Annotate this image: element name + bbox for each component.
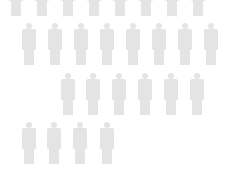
person-icon (99, 122, 115, 166)
person-torso (86, 79, 100, 100)
person-torso (152, 29, 166, 50)
person-icon (125, 23, 141, 67)
person-icon (21, 23, 37, 67)
pictogram-chart (0, 0, 225, 196)
person-icon (164, 0, 180, 18)
person-icon (99, 23, 115, 67)
person-icon (73, 23, 89, 67)
person-right-leg (185, 49, 190, 65)
person-icon (34, 0, 50, 18)
person-torso (73, 128, 87, 149)
person-right-leg (172, 0, 177, 16)
person-right-leg (107, 49, 112, 65)
person-right-leg (54, 148, 59, 164)
person-torso (74, 29, 88, 50)
person-right-leg (198, 0, 203, 16)
person-icon (203, 23, 219, 67)
person-icon (190, 0, 206, 18)
person-icon (177, 23, 193, 67)
person-right-leg (94, 0, 99, 16)
person-torso (164, 79, 178, 100)
person-icon (60, 73, 76, 117)
person-torso (47, 128, 61, 149)
person-torso (22, 128, 36, 149)
person-right-leg (81, 49, 86, 65)
person-torso (100, 128, 114, 149)
person-icon (21, 122, 37, 166)
person-right-leg (120, 0, 125, 16)
person-right-leg (107, 148, 112, 164)
person-icon (47, 23, 63, 67)
person-right-leg (133, 49, 138, 65)
person-right-leg (171, 99, 176, 115)
person-torso (178, 29, 192, 50)
person-right-leg (145, 99, 150, 115)
person-right-leg (146, 0, 151, 16)
person-right-leg (93, 99, 98, 115)
person-icon (86, 0, 102, 18)
person-right-leg (159, 49, 164, 65)
person-torso (126, 29, 140, 50)
person-right-leg (42, 0, 47, 16)
person-torso (22, 29, 36, 50)
person-right-leg (119, 99, 124, 115)
person-icon (46, 122, 62, 166)
person-right-leg (80, 148, 85, 164)
person-torso (204, 29, 218, 50)
person-torso (112, 79, 126, 100)
person-torso (61, 79, 75, 100)
person-icon (85, 73, 101, 117)
person-right-leg (29, 148, 34, 164)
person-right-leg (197, 99, 202, 115)
person-icon (112, 0, 128, 18)
person-icon (163, 73, 179, 117)
person-icon (111, 73, 127, 117)
person-right-leg (68, 99, 73, 115)
person-right-leg (16, 0, 21, 16)
person-icon (151, 23, 167, 67)
person-torso (100, 29, 114, 50)
person-icon (60, 0, 76, 18)
person-right-leg (211, 49, 216, 65)
person-icon (137, 73, 153, 117)
person-icon (138, 0, 154, 18)
person-right-leg (68, 0, 73, 16)
person-right-leg (55, 49, 60, 65)
person-torso (190, 79, 204, 100)
person-icon (8, 0, 24, 18)
person-right-leg (29, 49, 34, 65)
person-torso (48, 29, 62, 50)
person-icon (189, 73, 205, 117)
person-torso (138, 79, 152, 100)
person-icon (72, 122, 88, 166)
